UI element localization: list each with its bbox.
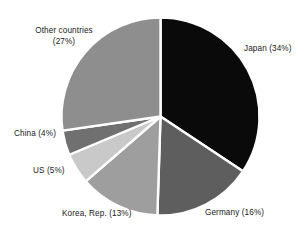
pie-label-china: China (4%) xyxy=(14,129,56,140)
pie-slice-group xyxy=(62,18,260,216)
pie-label-other-countries: Other countries (27%) xyxy=(22,26,106,47)
pie-label-other-countries-line1: Other countries xyxy=(35,26,92,35)
pie-chart-figure: Japan (34%) Germany (16%) Korea, Rep. (1… xyxy=(0,0,307,237)
pie-label-us: US (5%) xyxy=(33,166,65,177)
pie-label-korea: Korea, Rep. (13%) xyxy=(62,209,132,220)
pie-label-japan: Japan (34%) xyxy=(244,44,292,55)
pie-label-other-countries-line2: (27%) xyxy=(53,37,75,46)
pie-label-germany: Germany (16%) xyxy=(205,208,264,219)
